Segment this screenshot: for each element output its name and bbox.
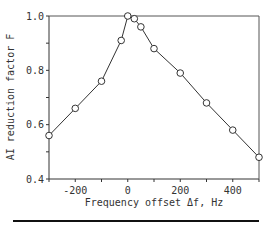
data-point-marker	[256, 154, 263, 161]
x-tick-label: 400	[224, 185, 242, 196]
y-tick-label: 0.4	[26, 174, 44, 185]
y-tick-label: 0.8	[26, 65, 44, 76]
data-point-marker	[203, 100, 210, 107]
data-point-marker	[177, 70, 184, 77]
data-point-marker	[151, 45, 158, 52]
y-tick-label: 1.0	[26, 11, 44, 22]
y-axis-tick-labels: 0.40.60.81.0	[26, 11, 44, 185]
y-tick-label: 0.6	[26, 119, 44, 130]
x-axis-title: Frequency offset Δf, Hz	[85, 197, 223, 208]
data-point-marker	[72, 105, 79, 112]
x-tick-label: 200	[171, 185, 189, 196]
y-axis-title: AI reduction factor F	[5, 34, 16, 160]
data-point-marker	[138, 24, 145, 31]
x-tick-label: -200	[63, 185, 87, 196]
data-point-marker	[229, 127, 236, 134]
line-chart: 0.40.60.81.0 -2000200400 AI reduction fa…	[0, 0, 273, 228]
data-point-marker	[118, 37, 125, 44]
data-line	[49, 16, 259, 157]
bottom-rule	[13, 220, 259, 222]
plot-frame	[49, 16, 259, 179]
x-axis-tick-labels: -2000200400	[63, 185, 242, 196]
x-tick-label: 0	[125, 185, 131, 196]
data-markers	[46, 13, 263, 161]
data-point-marker	[131, 15, 138, 22]
data-point-marker	[46, 132, 53, 139]
data-point-marker	[124, 13, 131, 20]
data-point-marker	[98, 78, 105, 85]
